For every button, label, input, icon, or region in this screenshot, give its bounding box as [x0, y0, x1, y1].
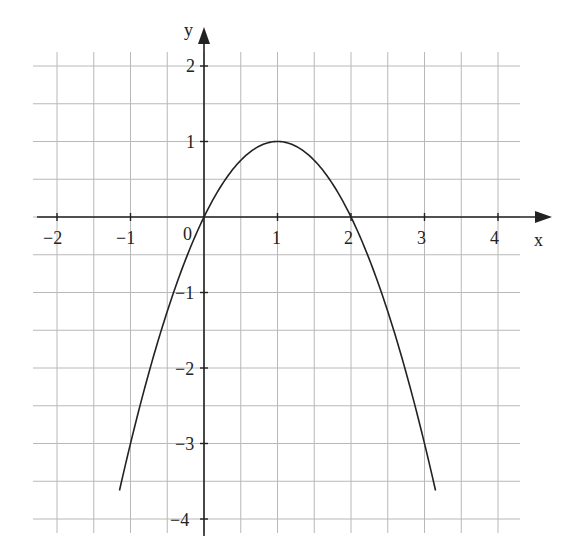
- y-tick-label: −4: [170, 510, 189, 530]
- tick-labels: y x 0 −2 −1 1 2 3 4 2 1 −1 −2 −3 −4: [43, 20, 543, 530]
- y-axis-label: y: [184, 20, 193, 40]
- parabola-chart: y x 0 −2 −1 1 2 3 4 2 1 −1 −2 −3 −4: [0, 0, 566, 554]
- x-tick-label: 2: [344, 228, 353, 248]
- x-axis-label: x: [534, 230, 543, 250]
- y-tick-label: −2: [175, 359, 194, 379]
- origin-label: 0: [183, 224, 192, 244]
- x-tick-label: −2: [43, 228, 62, 248]
- y-tick-label: 1: [186, 132, 195, 152]
- y-axis-arrow-icon: [198, 27, 210, 44]
- x-tick-label: −1: [116, 228, 135, 248]
- x-axis-arrow-icon: [535, 211, 552, 223]
- y-tick-label: 2: [186, 56, 195, 76]
- x-tick-label: 1: [272, 228, 281, 248]
- x-tick-label: 4: [490, 228, 499, 248]
- y-tick-label: −1: [175, 283, 194, 303]
- y-tick-label: −3: [175, 434, 194, 454]
- grid: [33, 52, 520, 533]
- x-tick-label: 3: [417, 228, 426, 248]
